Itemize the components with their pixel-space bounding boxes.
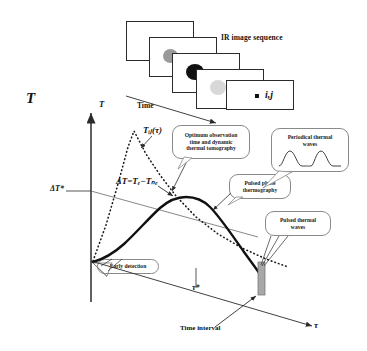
ir-sequence-title: IR image sequence <box>221 33 283 42</box>
callout-optimum-observation[interactable]: Optimum observation time and dynamic the… <box>172 125 250 159</box>
leader-delta-equation <box>158 186 173 196</box>
callout-periodical-thermal-waves[interactable]: Periodical thermal waves <box>271 128 349 172</box>
ir-frame-5: i,j <box>226 80 294 110</box>
pixel-ij-label: i,j <box>265 89 273 100</box>
time-interval-leader <box>215 296 256 327</box>
leader-optimum-observation <box>172 159 188 191</box>
pixel-temperature-curve-label: Tᵢⱼ(τ) <box>143 125 162 135</box>
callout-line: Pulsed phase <box>243 180 278 187</box>
sine-wave-icon <box>278 149 342 168</box>
callout-line: Periodical thermal <box>286 134 335 141</box>
outer-temperature-axis-label: T <box>26 90 35 107</box>
figure-canvas: i,j IR image sequence T T Time Tᵢⱼ(τ) ΔT… <box>0 0 367 351</box>
chart-temperature-axis-label: T <box>99 99 104 109</box>
delta-t-threshold-label: ΔT* <box>50 184 64 193</box>
callout-line: Optimum observation <box>183 132 240 139</box>
callout-line: time and dynamic <box>188 139 235 146</box>
callout-line: Early detection <box>108 263 149 270</box>
leader-pixel-curve <box>141 136 152 148</box>
leader-pulsed-phase <box>213 193 231 210</box>
callout-pulsed-thermal-waves[interactable]: Pulsed thermal waves <box>265 211 331 236</box>
leader-pulsed-thermal-2 <box>262 236 279 266</box>
pixel-marker-square <box>255 94 259 98</box>
callout-pulsed-phase-thermography[interactable]: Pulsed phase thermography <box>229 174 291 199</box>
thermal-blob-gray-light <box>210 80 226 95</box>
time-interval-bar <box>258 262 265 295</box>
callout-line: thermal tomography <box>184 145 238 152</box>
callout-line: waves <box>289 224 307 231</box>
callout-early-detection[interactable]: Early detection <box>97 259 159 274</box>
leader-pulsed-thermal-3 <box>264 236 288 266</box>
callout-line: Pulsed thermal <box>278 217 318 224</box>
time-interval-label: Time interval <box>180 324 221 332</box>
callout-line: thermography <box>241 187 280 194</box>
callout-line: waves <box>301 141 319 148</box>
time-arrow-label: Time <box>137 101 154 110</box>
tau-star-label: τ* <box>192 283 200 292</box>
leader-pulsed-thermal-1 <box>261 236 271 265</box>
tau-axis-label: τ <box>314 320 318 330</box>
delta-t-equation-label: ΔT=Tₑ−Tₙₑ <box>116 176 158 186</box>
